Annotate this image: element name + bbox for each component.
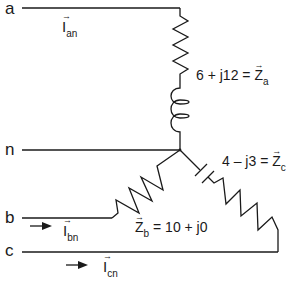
phasor-arrow-icon: → (62, 12, 71, 21)
arrow-icon-ibn (30, 222, 52, 230)
phasor-arrow-icon: → (63, 216, 72, 225)
inductor-za (171, 82, 189, 150)
impedance-label-za: 6 + j12 = →Za (196, 68, 269, 82)
node-label-a: a (5, 0, 14, 17)
capacitor-zc-lead (180, 150, 200, 170)
phasor-arrow-icon: → (272, 147, 281, 156)
capacitor-zc-plate1 (195, 164, 207, 176)
circuit-diagram (0, 0, 300, 294)
current-label-ibn: →Ibn (63, 223, 78, 238)
neutral-node (179, 149, 182, 152)
node-label-b: b (5, 209, 14, 226)
current-label-ian: →Ian (62, 19, 77, 34)
phasor-arrow-icon: → (103, 252, 112, 261)
resistor-zc (208, 177, 278, 252)
arrow-icon-icn (66, 261, 88, 269)
impedance-label-zc: 4 – j3 = →Zc (222, 154, 286, 168)
phasor-arrow-icon: → (254, 61, 263, 70)
resistor-zb (112, 150, 180, 218)
node-label-c: c (5, 242, 14, 259)
phasor-arrow-icon: → (135, 213, 144, 222)
current-label-icn: →Icn (103, 259, 118, 274)
node-label-n: n (5, 141, 14, 158)
impedance-label-zb: →Zb = 10 + j0 (135, 220, 208, 234)
resistor-za (173, 8, 188, 82)
